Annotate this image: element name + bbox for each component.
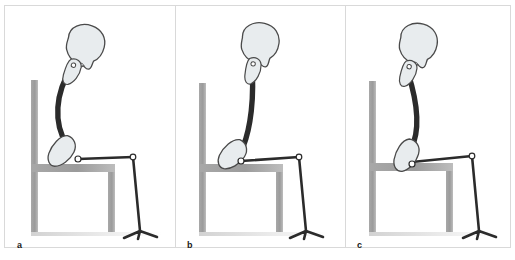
skull-icon: [396, 21, 440, 70]
panel-label-b: b: [187, 240, 193, 250]
figure-container: a b c: [0, 0, 515, 260]
knee-joint: [296, 154, 302, 160]
hip-joint: [238, 158, 244, 164]
panel-divider-1: [175, 5, 176, 248]
knee-joint: [130, 154, 136, 160]
hip-joint: [75, 156, 81, 162]
panel-c: [345, 5, 514, 248]
panel-label-c: c: [357, 240, 362, 250]
hip-joint: [409, 161, 415, 167]
knee-joint: [469, 153, 475, 159]
scapula-icon: [244, 57, 262, 85]
panel-b: [175, 5, 345, 248]
scapula-icon: [61, 57, 83, 87]
panel-label-a: a: [17, 240, 22, 250]
panel-divider-2: [345, 5, 346, 248]
panel-a: [5, 5, 175, 248]
chair-icon: [31, 80, 115, 232]
scapula-icon: [398, 59, 418, 88]
